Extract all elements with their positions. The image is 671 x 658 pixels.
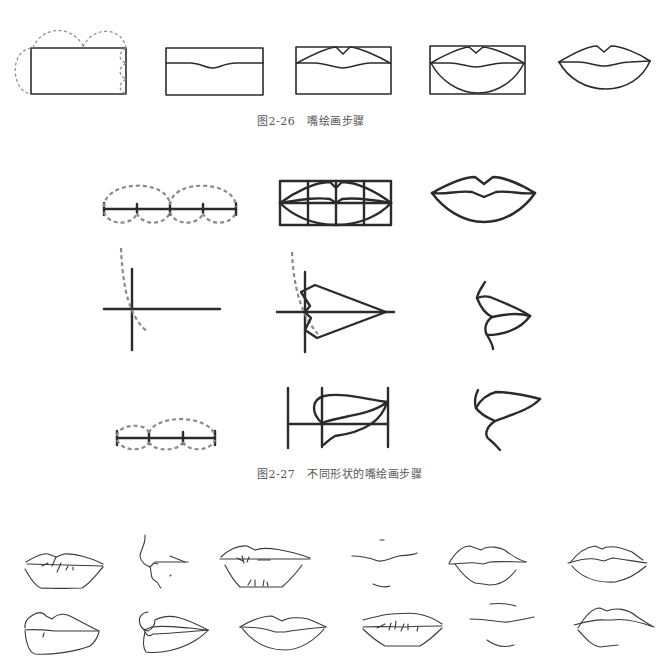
figure-caption-2-26: 图2-26嘴绘画步骤	[257, 112, 365, 128]
gallery-lips-11	[470, 603, 534, 646]
gallery-lips-4	[352, 540, 417, 587]
fig-2-27-front-grid	[280, 181, 391, 225]
gallery-profile-2	[140, 535, 188, 588]
gallery-lips-8	[139, 612, 208, 653]
gallery-lips-9	[240, 616, 326, 650]
caption-number: 图2-27	[257, 468, 295, 481]
gallery-lips-1	[25, 554, 103, 589]
fig-2-26-step-5	[559, 46, 650, 89]
fig-2-26-step-3	[296, 47, 391, 94]
fig-2-26-step-1	[15, 31, 126, 94]
caption-title: 不同形状的嘴绘画步骤	[307, 468, 422, 481]
gallery-lips-10	[363, 613, 442, 646]
gallery-lips-5	[449, 546, 526, 585]
gallery-lips-3	[220, 546, 310, 587]
fig-2-26-step-4	[430, 46, 525, 94]
gallery-lips-6	[568, 546, 647, 582]
gallery-lips-7	[25, 613, 99, 654]
fig-2-27-34-grid	[288, 388, 388, 448]
caption-number: 图2-26	[257, 115, 295, 128]
fig-2-26-step-2	[166, 48, 263, 95]
gallery-lips-12	[574, 608, 654, 647]
fig-2-27-34-finished	[475, 390, 540, 450]
fig-2-27-34-measure	[117, 419, 215, 449]
caption-title: 嘴绘画步骤	[307, 115, 365, 128]
fig-2-27-front-finished	[432, 177, 535, 222]
figure-caption-2-27: 图2-27不同形状的嘴绘画步骤	[257, 465, 422, 481]
fig-2-27-profile-finished	[477, 282, 530, 349]
textbook-page: 图2-26嘴绘画步骤 图2-27不同形状的嘴绘画步骤	[0, 0, 671, 658]
fig-2-27-profile-wedge	[277, 252, 394, 352]
fig-2-27-front-measure	[104, 186, 236, 223]
fig-2-27-profile-axes	[104, 248, 220, 350]
